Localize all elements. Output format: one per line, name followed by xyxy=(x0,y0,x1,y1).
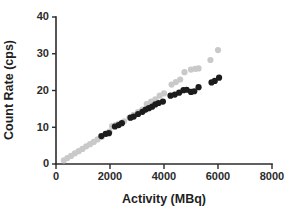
data-point xyxy=(195,65,201,71)
data-point xyxy=(160,98,166,104)
x-tick-label: 2000 xyxy=(98,170,122,182)
series-light-gray-points xyxy=(61,47,221,163)
data-point xyxy=(195,84,201,90)
data-point xyxy=(119,120,125,126)
scatter-chart: 01020304002000400060008000 Activity (MBq… xyxy=(0,0,297,213)
series-dark-black-points xyxy=(98,75,222,140)
y-tick-label: 30 xyxy=(37,47,49,59)
data-point xyxy=(216,75,222,81)
y-tick-label: 0 xyxy=(43,157,49,169)
y-tick-label: 10 xyxy=(37,121,49,133)
y-axis-title: Count Rate (cps) xyxy=(2,40,16,140)
y-tick-label: 20 xyxy=(37,84,49,96)
x-tick-label: 8000 xyxy=(260,170,284,182)
data-point xyxy=(215,47,221,53)
data-point xyxy=(161,90,167,96)
x-axis-title: Activity (MBq) xyxy=(122,192,206,206)
data-point xyxy=(106,130,112,136)
plot-area: 01020304002000400060008000 Activity (MBq… xyxy=(0,0,297,213)
x-tick-label: 6000 xyxy=(206,170,230,182)
x-tick-label: 0 xyxy=(53,170,59,182)
x-tick-label: 4000 xyxy=(152,170,176,182)
data-point xyxy=(207,57,213,63)
data-point xyxy=(177,76,183,82)
y-tick-label: 40 xyxy=(37,10,49,22)
data-point xyxy=(181,69,187,75)
